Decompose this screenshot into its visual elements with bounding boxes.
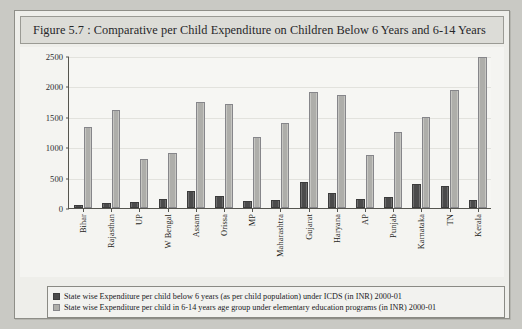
bar[interactable] xyxy=(478,57,487,208)
bar-group[interactable]: Haryana xyxy=(323,56,351,208)
x-tick-mark xyxy=(139,208,140,212)
x-tick-label: Karnataka xyxy=(417,214,426,249)
bar-group[interactable]: Punjab xyxy=(379,56,407,208)
bar[interactable] xyxy=(253,137,262,208)
x-tick-label: UP xyxy=(135,214,144,225)
x-tick-mark xyxy=(224,208,225,212)
bar[interactable] xyxy=(140,159,149,208)
bar[interactable] xyxy=(441,186,450,208)
x-tick-label: TN xyxy=(445,214,454,225)
figure-panel: Figure 5.7 : Comparative per Child Expen… xyxy=(14,10,510,319)
bar-group[interactable]: UP xyxy=(125,56,153,208)
y-tick-label: 1000 xyxy=(46,143,63,153)
bar[interactable] xyxy=(215,196,224,208)
x-tick-mark xyxy=(421,208,422,212)
bar-group[interactable]: W Bengal xyxy=(154,56,182,208)
bar-group[interactable]: Gujarat xyxy=(295,56,323,208)
figure-caption-bar: Figure 5.7 : Comparative per Child Expen… xyxy=(20,16,504,44)
legend-item-elementary-education: State wise Expenditure per child in 6-14… xyxy=(53,302,499,314)
x-tick-label: Gujarat xyxy=(304,214,313,240)
bar[interactable] xyxy=(309,92,318,208)
y-tick-mark xyxy=(66,209,70,210)
bar[interactable] xyxy=(168,153,177,208)
bar-group[interactable]: MP xyxy=(238,56,266,208)
x-tick-label: AP xyxy=(361,214,370,225)
x-tick-label: Orissa xyxy=(220,214,229,236)
x-tick-mark xyxy=(450,208,451,212)
bar[interactable] xyxy=(196,102,205,208)
figure-caption: Figure 5.7 : Comparative per Child Expen… xyxy=(33,23,486,38)
x-tick-mark xyxy=(280,208,281,212)
bar[interactable] xyxy=(337,95,346,208)
bar[interactable] xyxy=(102,203,111,208)
x-tick-label: Rajasthan xyxy=(107,214,116,248)
bar[interactable] xyxy=(328,193,337,208)
bar[interactable] xyxy=(356,199,365,208)
bar-group[interactable]: Orissa xyxy=(210,56,238,208)
x-tick-mark xyxy=(111,208,112,212)
x-tick-label: Punjab xyxy=(389,214,398,238)
bar[interactable] xyxy=(225,104,234,208)
bar[interactable] xyxy=(300,182,309,208)
x-tick-mark xyxy=(393,208,394,212)
x-tick-mark xyxy=(196,208,197,212)
bar[interactable] xyxy=(187,191,196,208)
x-tick-label: Maharashtra xyxy=(276,214,285,257)
bar[interactable] xyxy=(74,205,83,208)
x-tick-label: W Bengal xyxy=(163,214,172,248)
light-square-icon xyxy=(53,304,60,311)
x-tick-mark xyxy=(337,208,338,212)
x-tick-mark xyxy=(83,208,84,212)
chart-container: 05001000150020002500 BiharRajasthanUPW B… xyxy=(20,47,504,277)
chart-legend: State wise Expenditure per child below 6… xyxy=(47,286,505,318)
bar-group[interactable]: Assam xyxy=(182,56,210,208)
y-tick-label: 0 xyxy=(59,204,63,214)
bar[interactable] xyxy=(159,199,168,208)
x-tick-mark xyxy=(478,208,479,212)
bar-group[interactable]: AP xyxy=(351,56,379,208)
x-tick-mark xyxy=(168,208,169,212)
bar[interactable] xyxy=(366,155,375,208)
bar[interactable] xyxy=(243,201,252,208)
bar[interactable] xyxy=(450,90,459,208)
bar[interactable] xyxy=(112,110,121,208)
bar-group[interactable]: TN xyxy=(436,56,464,208)
x-tick-label: Kerala xyxy=(473,214,482,237)
y-tick-label: 1500 xyxy=(46,113,63,123)
x-tick-mark xyxy=(252,208,253,212)
bar[interactable] xyxy=(281,123,290,208)
x-tick-label: Assam xyxy=(191,214,200,237)
bar-group[interactable]: Rajasthan xyxy=(97,56,125,208)
y-tick-label: 500 xyxy=(50,174,63,184)
x-tick-label: MP xyxy=(248,214,257,226)
legend-label-elementary-education: State wise Expenditure per child in 6-14… xyxy=(64,303,436,312)
bar-group[interactable]: Maharashtra xyxy=(266,56,294,208)
bar[interactable] xyxy=(84,127,93,208)
x-tick-label: Haryana xyxy=(332,214,341,243)
bar-group[interactable]: Kerala xyxy=(464,56,492,208)
bar[interactable] xyxy=(394,132,403,208)
x-tick-mark xyxy=(365,208,366,212)
bar[interactable] xyxy=(130,202,139,208)
bar[interactable] xyxy=(384,197,393,208)
x-tick-label: Bihar xyxy=(79,214,88,233)
x-tick-mark xyxy=(309,208,310,212)
bar-group[interactable]: Karnataka xyxy=(407,56,435,208)
bar[interactable] xyxy=(271,200,280,209)
dark-square-icon xyxy=(53,293,60,300)
y-tick-label: 2500 xyxy=(46,52,63,62)
y-tick-label: 2000 xyxy=(46,82,63,92)
bar[interactable] xyxy=(469,200,478,208)
bar[interactable] xyxy=(422,117,431,209)
bar-group[interactable]: Bihar xyxy=(69,56,97,208)
legend-label-icds: State wise Expenditure per child below 6… xyxy=(64,292,402,301)
bar[interactable] xyxy=(412,184,421,208)
legend-item-icds: State wise Expenditure per child below 6… xyxy=(53,291,499,303)
plot-area: 05001000150020002500 BiharRajasthanUPW B… xyxy=(68,57,491,209)
